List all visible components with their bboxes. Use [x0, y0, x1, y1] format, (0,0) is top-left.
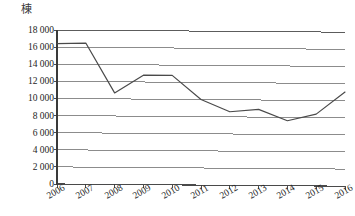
x-axis-tick-label: 2013: [247, 183, 268, 201]
x-axis-tick-label: 2008: [103, 183, 124, 201]
x-axis-tick-labels: 2006200720082009201020112012201320142015…: [0, 0, 355, 216]
x-axis-tick-label: 2006: [45, 183, 66, 201]
x-axis-tick-label: 2011: [189, 183, 210, 201]
x-axis-tick-label: 2007: [74, 183, 95, 201]
x-axis-tick-label: 2015: [304, 183, 325, 201]
x-axis-tick-label: 2010: [160, 183, 181, 201]
x-axis-tick-label: 2014: [275, 183, 296, 201]
x-axis-tick-label: 2016: [333, 183, 354, 201]
line-chart-figure: 棟 02 0004 0006 0008 00010 00012 00014 00…: [0, 0, 355, 216]
x-axis-tick-label: 2012: [218, 183, 239, 201]
x-axis-tick-label: 2009: [131, 183, 152, 201]
